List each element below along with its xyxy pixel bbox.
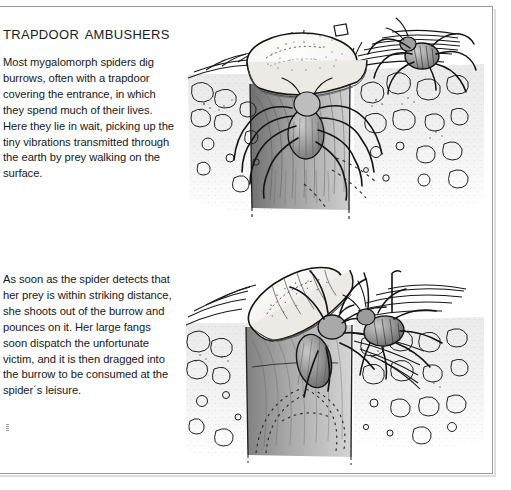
page-title: Trapdoor ambushers (3, 22, 178, 44)
illustration-trapdoor-spider-waiting-in-burrow (186, 12, 486, 227)
book-page: Trapdoor ambushers Most mygalomorph spid… (0, 0, 511, 490)
illustration-trapdoor-spider-striking-prey (186, 255, 486, 470)
body-paragraph-1: Most mygalomorph spiders dig burrows, of… (3, 55, 175, 182)
body-paragraph-2: As soon as the spider detects that her p… (3, 272, 175, 399)
scan-artifact-mark (6, 424, 9, 432)
text-column: Trapdoor ambushers Most mygalomorph spid… (3, 22, 178, 182)
text-column-lower: As soon as the spider detects that her p… (3, 272, 178, 399)
